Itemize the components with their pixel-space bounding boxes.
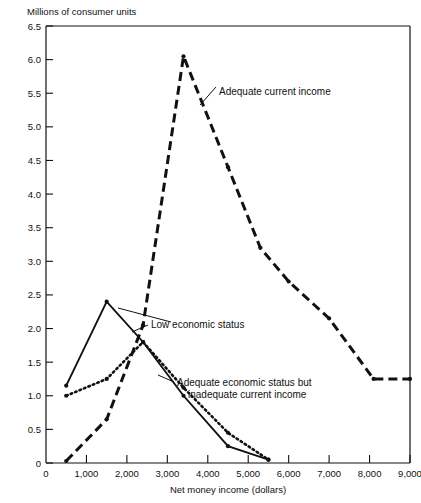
y-axis-unit-caption: Millions of consumer units [27,6,137,17]
annotation-label-adequate-economic-status: Adequate economic status but [177,377,312,388]
x-tick-label: 9,000 [398,468,421,479]
y-tick-label: 1.5 [28,357,41,368]
y-tick-label: 5.0 [28,121,41,132]
data-point [266,458,270,462]
annotation-label-adequate-current-income: Adequate current income [219,86,331,97]
series-line-2 [66,342,268,460]
data-point-markers [64,54,412,463]
annotation-label-adequate-economic-status-line2: inadequate current income [188,389,307,400]
data-point [105,300,109,304]
data-point [181,54,185,58]
x-axis-title: Net money income (dollars) [170,484,286,495]
data-point [226,444,230,448]
data-point [372,377,376,381]
x-tick-label: 4,000 [196,468,220,479]
consumer-units-line-chart: Millions of consumer units 00.51.01.52.0… [0,0,421,503]
x-tick-label: 6,000 [277,468,301,479]
data-point [64,394,68,398]
data-point [105,377,109,381]
series-annotations: Adequate current incomeLow economic stat… [118,86,331,400]
annotation-leader-line [132,325,148,332]
x-tick-label: 5,000 [236,468,260,479]
annotation-leader-line [200,87,216,105]
x-tick-label: 2,000 [115,468,139,479]
chart-figure: Millions of consumer units 00.51.01.52.0… [0,0,421,503]
x-tick-label: 1,000 [75,468,99,479]
y-tick-label: 5.5 [28,88,41,99]
data-point [408,377,412,381]
data-series-group [66,56,410,461]
y-tick-label: 0.5 [28,424,41,435]
data-point [327,316,331,320]
x-tick-label: 3,000 [155,468,179,479]
y-tick-label: 1.0 [28,390,41,401]
y-tick-label: 6.5 [28,21,41,32]
x-tick-label: 8,000 [358,468,382,479]
y-tick-label: 4.0 [28,189,41,200]
y-tick-label: 3.5 [28,222,41,233]
y-tick-label: 0 [36,458,41,469]
y-tick-label: 4.5 [28,155,41,166]
data-point [226,431,230,435]
y-axis-ticks [46,26,53,463]
y-tick-label: 3.0 [28,256,41,267]
x-tick-label: 7,000 [317,468,341,479]
x-axis-ticks [86,455,410,463]
data-point [181,394,185,398]
y-tick-label: 2.5 [28,289,41,300]
data-point [64,384,68,388]
y-tick-label: 6.0 [28,54,41,65]
y-axis-tick-labels: 00.51.01.52.02.53.03.54.04.55.05.56.06.5 [28,21,41,469]
x-tick-label: 0 [43,468,48,479]
data-point [64,459,68,463]
data-point [258,246,262,250]
data-point [105,417,109,421]
series-line-0 [66,56,410,461]
x-axis-tick-labels: 01,0002,0003,0004,0005,0006,0007,0008,00… [43,468,421,479]
data-point [226,165,230,169]
data-point [287,279,291,283]
data-point [141,340,145,344]
y-tick-label: 2.0 [28,323,41,334]
